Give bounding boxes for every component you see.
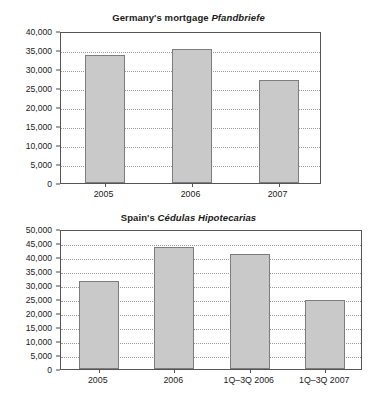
x-tick-label: 2006 — [181, 190, 201, 199]
y-tick-label: 30,000 — [26, 282, 52, 291]
y-tick-label: 35,000 — [26, 268, 52, 277]
chart-spain-cedulas: Spain's Cédulas Hipotecarias 05,00010,00… — [0, 200, 377, 397]
bar — [230, 254, 270, 369]
x-tick-label: 1Q–3Q 2006 — [224, 376, 274, 385]
y-tick-label: 20,000 — [26, 104, 52, 113]
bar — [172, 49, 212, 183]
x-tick-mark — [192, 183, 193, 187]
y-tick-label: 15,000 — [26, 123, 52, 132]
x-tick-mark — [105, 183, 106, 187]
y-tick-label: 25,000 — [26, 85, 52, 94]
x-tick-mark — [325, 369, 326, 373]
plot-area-spain — [60, 230, 362, 370]
y-tick-label: 50,000 — [26, 226, 52, 235]
bar — [85, 55, 125, 183]
x-tick-label: 2005 — [88, 376, 108, 385]
y-tick-label: 5,000 — [30, 161, 52, 170]
y-tick-label: 35,000 — [26, 47, 52, 56]
y-tick-label: 40,000 — [26, 254, 52, 263]
bars-spain — [61, 231, 361, 369]
x-tick-mark — [99, 369, 100, 373]
y-tick-label: 25,000 — [26, 296, 52, 305]
plot-area-germany — [60, 32, 321, 184]
x-tick-mark — [279, 183, 280, 187]
y-tick-label: 30,000 — [26, 66, 52, 75]
y-tick-label: 10,000 — [26, 142, 52, 151]
x-tick-mark — [250, 369, 251, 373]
bar — [259, 80, 299, 183]
bar — [154, 247, 194, 369]
x-tick-label: 1Q–3Q 2007 — [299, 376, 349, 385]
y-tick-label: 5,000 — [30, 352, 52, 361]
y-tick-label: 15,000 — [26, 324, 52, 333]
bars-germany — [61, 33, 320, 183]
y-tick-label: 0 — [47, 366, 52, 375]
y-tick-label: 45,000 — [26, 240, 52, 249]
plot-wrap-spain: 05,00010,00015,00020,00025,00030,00035,0… — [0, 200, 377, 397]
plot-wrap-germany: 05,00010,00015,00020,00025,00030,00035,0… — [0, 0, 377, 200]
y-tick-label: 40,000 — [26, 28, 52, 37]
x-tick-label: 2007 — [268, 190, 288, 199]
x-tick-mark — [174, 369, 175, 373]
x-tick-label: 2006 — [163, 376, 183, 385]
bar — [305, 300, 345, 369]
x-tick-label: 2005 — [94, 190, 114, 199]
y-tick-label: 0 — [47, 180, 52, 189]
bar — [79, 281, 119, 369]
y-tick-label: 10,000 — [26, 338, 52, 347]
chart-germany-pfandbriefe: Germany's mortgage Pfandbriefe 05,00010,… — [0, 0, 377, 200]
y-tick-label: 20,000 — [26, 310, 52, 319]
